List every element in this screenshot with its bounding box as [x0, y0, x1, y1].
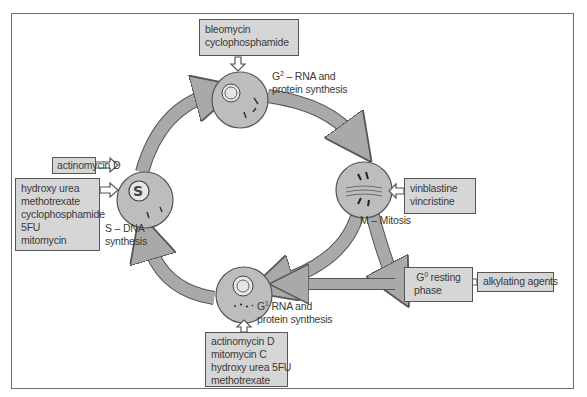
drug-name: mitomycin [21, 234, 94, 247]
drug-box-g0: alkylating agents [477, 272, 554, 292]
drug-name: methotrexate [21, 195, 94, 208]
drug-name: hydroxy urea [21, 182, 94, 195]
drug-box-s-main: hydroxy urea methotrexate cyclophosphami… [15, 178, 100, 251]
drug-name: methotrexate [211, 374, 282, 387]
arrow-bleomycin [231, 57, 245, 71]
cell-s: S [117, 172, 173, 228]
g0-label-line1: G0 resting [410, 271, 467, 284]
drug-box-g1: actinomycin D mitomycin C hydroxy urea 5… [205, 332, 288, 387]
phase-label-m: M – Mitosis [360, 214, 411, 227]
cell-m [336, 162, 392, 218]
drug-name: bleomycin [205, 23, 293, 36]
drug-name: actinomycin D [57, 159, 91, 172]
drug-box-s-top: actinomycin D [52, 157, 96, 174]
drug-box-m: vinblastine vincristine [404, 178, 476, 214]
drug-name: alkylating agents [483, 275, 548, 288]
phase-label-s: S – DNA synthesis [105, 222, 147, 248]
drug-name: mitomycin C [211, 348, 282, 361]
cell-g2 [212, 72, 268, 128]
phase-label-g2: G2 – RNA and protein synthesis [272, 70, 347, 96]
drug-name: hydroxy urea 5FU [211, 361, 282, 374]
drug-name: actinomycin D [211, 335, 282, 348]
svg-text:S: S [133, 183, 143, 199]
drug-name: vinblastine [410, 182, 470, 195]
drug-name: cyclophosphamide [21, 208, 94, 221]
phase-box-g0: G0 resting phase [404, 267, 473, 302]
phase-label-g1: G1 RNA and protein synthesis [257, 300, 332, 326]
drug-name: 5FU [21, 221, 94, 234]
g0-label-line2: phase [410, 284, 467, 297]
drug-name: vincristine [410, 195, 470, 208]
drug-name: cyclophosphamide [205, 36, 293, 49]
drug-box-g2: bleomycin cyclophosphamide [199, 19, 299, 56]
